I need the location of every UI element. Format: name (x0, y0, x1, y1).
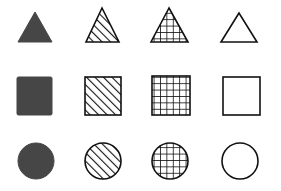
shapes-layer (17, 8, 260, 179)
triangle-crosshatch-grid (151, 8, 188, 42)
square-solid (17, 77, 52, 115)
square-empty (223, 77, 260, 115)
triangle-solid (18, 12, 52, 42)
circle-empty (222, 143, 258, 179)
circle-solid (18, 143, 54, 179)
triangle-empty (221, 13, 257, 42)
triangle-diagonal-hatch (86, 8, 119, 42)
circle-crosshatch-grid (152, 143, 188, 179)
shapes-grid (0, 0, 281, 191)
square-diagonal-hatch (85, 77, 121, 115)
square-crosshatch-grid (152, 76, 190, 115)
circle-diagonal-hatch (85, 143, 121, 179)
